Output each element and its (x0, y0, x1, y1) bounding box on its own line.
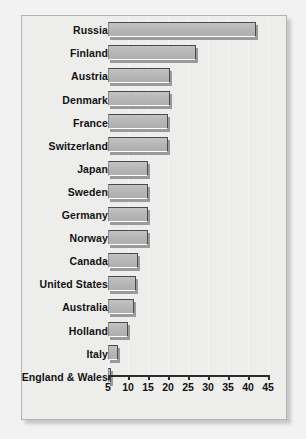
bar[interactable] (108, 253, 138, 268)
bar-row[interactable]: Norway (22, 227, 288, 250)
bar-track (108, 42, 288, 65)
category-label: Canada (0, 256, 108, 267)
x-tick-30 (208, 375, 210, 380)
bar-track (108, 296, 288, 319)
bar[interactable] (108, 45, 196, 60)
x-tick-label: 45 (255, 382, 281, 393)
category-label: Sweden (0, 187, 108, 198)
bar-track (108, 19, 288, 42)
bar-track (108, 111, 288, 134)
x-tick-40 (248, 375, 250, 380)
bar[interactable] (108, 161, 148, 176)
bar-row[interactable]: Italy (22, 342, 288, 365)
bar[interactable] (108, 184, 148, 199)
bar[interactable] (108, 22, 256, 37)
bar-track (108, 134, 288, 157)
x-tick-15 (148, 375, 150, 380)
bar[interactable] (108, 137, 168, 152)
bar-track (108, 273, 288, 296)
bar[interactable] (108, 322, 128, 337)
category-label: Switzerland (0, 141, 108, 152)
category-label: Italy (0, 349, 108, 360)
bar[interactable] (108, 68, 170, 83)
bar-row[interactable]: United States (22, 273, 288, 296)
bar-track (108, 88, 288, 111)
category-label: Finland (0, 48, 108, 59)
bar[interactable] (108, 207, 148, 222)
x-tick-35 (228, 375, 230, 380)
bar-row[interactable]: Austria (22, 65, 288, 88)
category-label: Japan (0, 164, 108, 175)
x-axis: 51015202530354045 (22, 375, 288, 403)
x-tick-45 (268, 375, 270, 380)
bar-row[interactable]: Finland (22, 42, 288, 65)
x-tick-25 (188, 375, 190, 380)
category-label: Austria (0, 71, 108, 82)
bar-row[interactable]: France (22, 111, 288, 134)
bar-track (108, 204, 288, 227)
x-tick-10 (128, 375, 130, 380)
category-label: Denmark (0, 95, 108, 106)
x-tick-5 (108, 375, 110, 380)
bar-rows-group: RussiaFinlandAustriaDenmarkFranceSwitzer… (22, 19, 288, 389)
bar-track (108, 227, 288, 250)
bar[interactable] (108, 230, 148, 245)
category-label: United States (0, 279, 108, 290)
bar-row[interactable]: Germany (22, 204, 288, 227)
bar-track (108, 319, 288, 342)
category-label: Russia (0, 25, 108, 36)
bar-row[interactable]: Russia (22, 19, 288, 42)
bar-row[interactable]: Australia (22, 296, 288, 319)
x-tick-20 (168, 375, 170, 380)
bar[interactable] (108, 91, 170, 106)
bar[interactable] (108, 276, 136, 291)
bar[interactable] (108, 345, 118, 360)
category-label: Germany (0, 210, 108, 221)
bar-row[interactable]: Denmark (22, 88, 288, 111)
bar-row[interactable]: Sweden (22, 181, 288, 204)
bar-row[interactable]: Canada (22, 250, 288, 273)
bar-row[interactable]: Holland (22, 319, 288, 342)
bar-track (108, 181, 288, 204)
bar-row[interactable]: Japan (22, 158, 288, 181)
bar-track (108, 342, 288, 365)
plot-area: RussiaFinlandAustriaDenmarkFranceSwitzer… (22, 16, 286, 419)
bar[interactable] (108, 299, 134, 314)
bar-track (108, 158, 288, 181)
bar-track (108, 65, 288, 88)
category-label: Holland (0, 326, 108, 337)
chart-panel: RussiaFinlandAustriaDenmarkFranceSwitzer… (21, 15, 287, 420)
category-label: Norway (0, 233, 108, 244)
bar-row[interactable]: Switzerland (22, 134, 288, 157)
category-label: France (0, 118, 108, 129)
bar[interactable] (108, 114, 168, 129)
bar-track (108, 250, 288, 273)
category-label: Australia (0, 302, 108, 313)
